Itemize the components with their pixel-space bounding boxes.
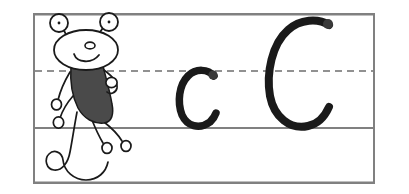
- uppercase-c-start-nib: [323, 19, 333, 29]
- right-foot-loop: [102, 143, 112, 154]
- right-hand-loop: [106, 77, 117, 87]
- handwriting-worksheet: Letter C Handwriting Practice Handwritin…: [0, 0, 409, 194]
- head-shape: [54, 30, 118, 70]
- left-pupil: [58, 22, 61, 25]
- left-hand-loop: [52, 99, 62, 110]
- lowercase-c-start-nib: [208, 70, 217, 79]
- worksheet-canvas: [0, 0, 409, 194]
- right-back-foot-loop: [121, 141, 131, 152]
- right-pupil: [108, 21, 111, 24]
- left-foot-loop: [53, 117, 63, 128]
- nose-shape: [85, 42, 95, 49]
